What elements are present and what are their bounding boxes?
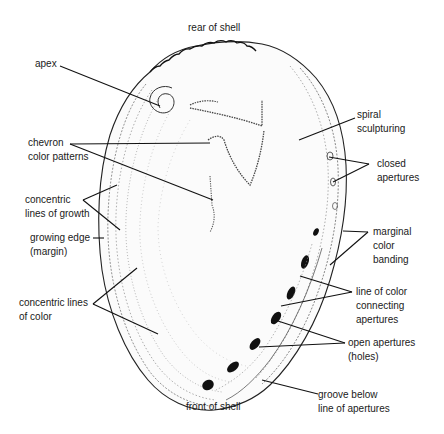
label-front-of-shell: front of shell <box>186 400 240 414</box>
label-marginal-line2: color <box>373 239 411 253</box>
label-closed-line1: closed <box>377 157 419 171</box>
label-open-line1: open apertures <box>348 336 415 350</box>
label-open-apertures: open apertures (holes) <box>348 336 415 364</box>
label-open-line2: (holes) <box>348 350 415 364</box>
label-connecting-line1: line of color <box>356 285 407 299</box>
label-growing-edge: growing edge (margin) <box>30 231 90 259</box>
label-growth-line1: concentric <box>25 193 89 207</box>
label-concentric-lines-of-growth: concentric lines of growth <box>25 193 89 221</box>
label-marginal-color-banding: marginal color banding <box>373 225 411 267</box>
label-groove-below-apertures: groove below line of apertures <box>318 388 390 416</box>
label-apex: apex <box>35 57 57 71</box>
label-rear-of-shell: rear of shell <box>188 21 240 35</box>
label-line-of-color-connecting-apertures: line of color connecting apertures <box>356 285 407 327</box>
label-closed-apertures: closed apertures <box>377 157 419 185</box>
leader-marginal-1 <box>343 231 368 232</box>
label-connecting-line2: connecting <box>356 299 407 313</box>
label-groove-line1: groove below <box>318 388 390 402</box>
label-concentric-lines-of-color: concentric lines of color <box>19 296 88 324</box>
label-groove-line2: line of apertures <box>318 402 390 416</box>
label-spiral-sculpturing: spiral sculpturing <box>357 108 405 136</box>
label-color-lines-line1: concentric lines <box>19 296 88 310</box>
label-spiral-line1: spiral <box>357 108 405 122</box>
label-margin-line2: (margin) <box>30 245 90 259</box>
label-growth-line2: lines of growth <box>25 207 89 221</box>
label-color-lines-line2: of color <box>19 310 88 324</box>
label-marginal-line1: marginal <box>373 225 411 239</box>
label-closed-line2: apertures <box>377 171 419 185</box>
label-connecting-line3: apertures <box>356 313 407 327</box>
label-spiral-line2: sculpturing <box>357 122 405 136</box>
label-chevron-line2: color patterns <box>28 150 89 164</box>
leader-groove <box>262 380 318 394</box>
label-chevron-line1: chevron <box>28 136 89 150</box>
label-marginal-line3: banding <box>373 253 411 267</box>
label-chevron-color-patterns: chevron color patterns <box>28 136 89 164</box>
label-margin-line1: growing edge <box>30 231 90 245</box>
